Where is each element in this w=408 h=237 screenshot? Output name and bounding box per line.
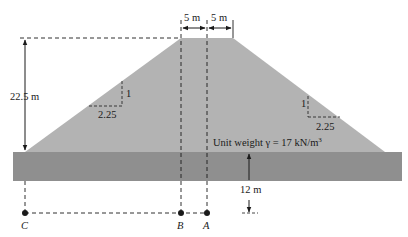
soil-layer <box>13 152 402 181</box>
point-c-label: C <box>21 220 29 231</box>
embankment <box>25 38 385 152</box>
point-b-label: B <box>177 220 184 231</box>
point-c <box>22 210 28 216</box>
point-a <box>204 210 210 216</box>
slope-left-v-label: 1 <box>126 88 131 99</box>
point-a-label: A <box>202 220 210 231</box>
slope-right-h-label: 2.25 <box>316 121 334 132</box>
crest-right-label: 5 m <box>211 12 227 23</box>
slope-left-h-label: 2.25 <box>98 109 116 120</box>
crest-left-label: 5 m <box>184 12 200 23</box>
point-b <box>178 210 184 216</box>
embankment-diagram: 22.5 m 5 m 5 m 1 2.25 1 2.25 Unit weight… <box>0 0 408 237</box>
height-label: 22.5 m <box>10 91 39 102</box>
depth-label: 12 m <box>240 184 261 195</box>
unit-weight-label: Unit weight γ = 17 kN/m3 <box>213 136 322 148</box>
slope-right-v-label: 1 <box>301 98 306 109</box>
